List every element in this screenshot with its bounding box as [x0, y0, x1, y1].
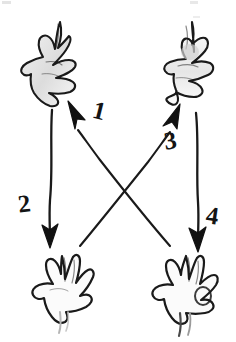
hand-top-left: [21, 22, 75, 106]
sketch-canvas: [0, 0, 236, 342]
arrow-1: [68, 101, 170, 246]
scan-artifacts: [2, 1, 200, 18]
hand-top-right: [164, 22, 213, 105]
arrow-2: [42, 110, 58, 248]
arrow-3: [80, 104, 180, 246]
hand-bottom-right: [152, 256, 217, 336]
arrow-4: [189, 113, 206, 252]
hand-bottom-left: [32, 255, 93, 333]
sketch-figure: 1 2 3 4: [0, 0, 236, 342]
